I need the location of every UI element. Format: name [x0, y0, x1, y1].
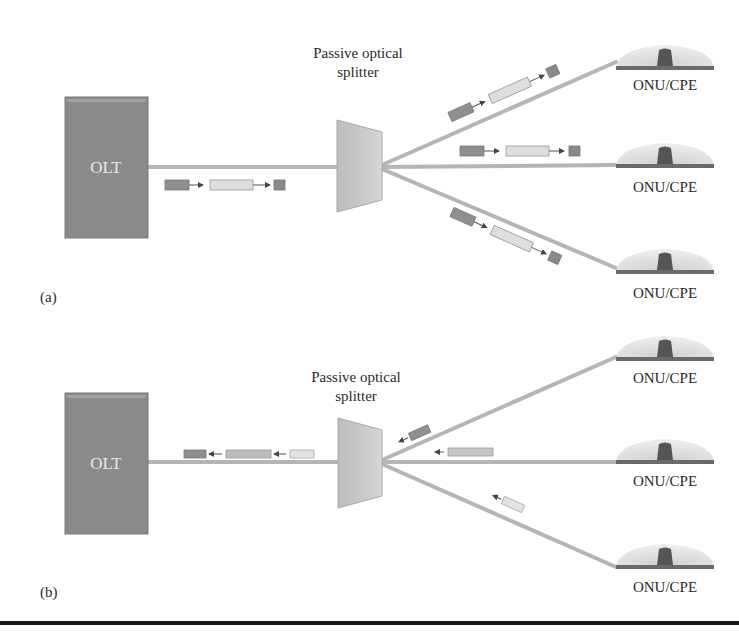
- splitter-label-line2: splitter: [335, 388, 377, 404]
- packet-sequence-trunk: [184, 450, 314, 458]
- splitter-label-line1: Passive optical: [311, 369, 401, 385]
- onu-middle: ONU/CPE: [616, 143, 714, 195]
- fiber-branch-top: [382, 357, 616, 460]
- passive-splitter: Passive optical splitter: [311, 369, 401, 508]
- panel-b: OLT Passive optical splitter: [40, 336, 714, 601]
- bottom-rule: [0, 621, 739, 625]
- onu-label: ONU/CPE: [633, 370, 697, 386]
- fiber-branch-bottom: [382, 169, 616, 268]
- panel-label-b: (b): [40, 584, 58, 601]
- onu-label: ONU/CPE: [633, 179, 697, 195]
- onu-top: ONU/CPE: [616, 45, 714, 93]
- onu-label: ONU/CPE: [633, 77, 697, 93]
- olt-label: OLT: [90, 158, 122, 177]
- onu-bottom: ONU/CPE: [616, 249, 714, 301]
- onu-top: ONU/CPE: [616, 336, 714, 386]
- fiber-branch-bottom: [382, 464, 616, 567]
- fiber-branch-top: [382, 62, 616, 165]
- packet-sequence-bottom: [491, 492, 524, 513]
- olt-box: OLT: [65, 393, 148, 534]
- splitter-label-line1: Passive optical: [313, 45, 403, 61]
- onu-label: ONU/CPE: [633, 285, 697, 301]
- onu-label: ONU/CPE: [633, 473, 697, 489]
- packet-sequence-middle: [460, 146, 580, 156]
- onu-bottom: ONU/CPE: [616, 544, 714, 595]
- fiber-branch-middle: [382, 165, 616, 167]
- onu-label: ONU/CPE: [633, 579, 697, 595]
- olt-box: OLT: [65, 97, 148, 238]
- panel-a: OLT Passive optical splitter: [40, 45, 714, 306]
- packet-sequence-trunk: [165, 180, 285, 190]
- passive-splitter: Passive optical splitter: [313, 45, 403, 212]
- packet-sequence-middle: [435, 448, 493, 456]
- olt-label: OLT: [90, 454, 122, 473]
- onu-middle: ONU/CPE: [616, 439, 714, 489]
- pon-diagram: OLT Passive optical splitter: [0, 0, 739, 639]
- panel-label-a: (a): [40, 289, 57, 306]
- splitter-label-line2: splitter: [337, 64, 379, 80]
